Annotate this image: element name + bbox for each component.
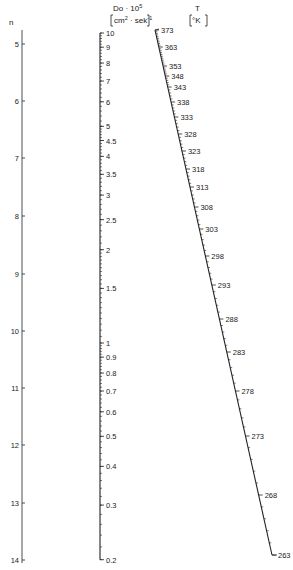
axis-t-tick-label: 313 [196,183,209,192]
axis-t-tick-label: 268 [265,491,278,500]
axis-t-unit-bracket-right [205,15,207,26]
axis-t-tick-label: 318 [192,165,205,174]
axis-n-tick-label: 11 [11,384,19,393]
axis-d-tick-label: 0.6 [106,408,116,417]
axis-d-tick-label: 5 [106,122,110,131]
axis-d-tick-label: 0.7 [106,387,116,396]
axis-d-tick-label: 0.3 [106,501,116,510]
axis-n-tick-label: 13 [11,499,19,508]
axis-t-tick-label: 343 [174,83,187,92]
axis-t-title: T [195,4,200,13]
axis-d-tick-label: 2 [106,246,110,255]
axis-d-tick-label: 0.4 [106,462,116,471]
axis-t-tick-label: 363 [165,43,178,52]
axis-n-tick-label: 12 [11,441,19,450]
axis-t-tick-label: 283 [233,348,246,357]
axis-d-tick-label: 3.5 [106,170,116,179]
axis-d-tick-label: 10 [106,29,114,38]
axis-t-tick-label: 293 [218,281,231,290]
axis-d-tick-label: 0.5 [106,432,116,441]
axis-d-tick-label: 8 [106,59,110,68]
axis-t-tick-label: 348 [171,72,184,81]
axis-d-title-line2: cm2 · sek-1 [114,15,152,25]
axis-d-tick-label: 0.8 [106,369,116,378]
axis-d-tick-label: 9 [106,43,110,52]
axis-t-tick-label: 338 [177,98,190,107]
axis-n-tick-label: 8 [15,212,19,221]
axis-n: 567891011121314 [11,30,25,565]
axis-t-line [155,30,272,555]
axis-d-tick-label: 1.5 [106,284,116,293]
axis-t-tick-label: 303 [205,225,218,234]
axis-d-tick-label: 4.5 [106,137,116,146]
axis-t-tick-label: 273 [251,432,264,441]
axis-d-tick-label: 4 [106,152,110,161]
axis-d-tick-label: 0.9 [106,353,116,362]
axis-t-tick-label: 353 [169,62,182,71]
axis-n-tick-label: 10 [11,327,19,336]
axis-t-tick-label: 308 [200,203,213,212]
axis-d-tick-label: 3 [106,191,110,200]
axis-t-tick-label: 298 [211,252,224,261]
axis-n-tick-label: 9 [15,270,19,279]
axis-t-unit: °K [192,16,201,25]
axis-headers: n Do · 105 cm2 · sek-1 T °K [9,3,207,27]
axis-t-tick-label: 323 [188,147,201,156]
axis-n-tick-label: 7 [15,154,19,163]
nomogram: 567891011121314 10987654.543.532.521.510… [0,0,293,570]
axis-d-tick-label: 2.5 [106,216,116,225]
axis-temperature: 3733633533483433383333283233183133083032… [155,26,291,560]
axis-t-tick-label: 288 [225,315,238,324]
axis-n-tick-label: 14 [11,556,19,565]
axis-t-tick-label: 328 [184,130,197,139]
axis-d-tick-label: 0.2 [106,556,116,565]
axis-d-tick-label: 7 [106,77,110,86]
axis-d-tick-label: 1 [106,339,110,348]
axis-diffusion-coefficient: 10987654.543.532.521.510.90.80.70.60.50.… [100,29,116,565]
axis-t-tick-label: 373 [161,26,174,35]
axis-t-tick-label: 263 [278,551,291,560]
axis-n-tick-label: 5 [15,40,19,49]
axis-t-tick-label: 278 [241,387,254,396]
axis-n-title: n [9,18,13,27]
axis-n-tick-label: 6 [15,97,19,106]
axis-d-tick-label: 6 [106,98,110,107]
axis-d-title-line1: Do · 105 [113,3,142,13]
axis-t-tick-label: 333 [180,113,193,122]
axis-d-unit-bracket-left [111,15,113,26]
